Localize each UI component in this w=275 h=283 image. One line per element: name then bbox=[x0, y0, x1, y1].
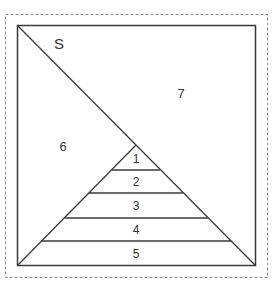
label-band-1: 1 bbox=[133, 152, 140, 166]
label-band-4: 4 bbox=[133, 223, 140, 237]
label-region-6: 6 bbox=[59, 139, 66, 154]
label-s: S bbox=[54, 35, 64, 52]
label-band-3: 3 bbox=[133, 199, 140, 213]
triangle-left-edge bbox=[18, 145, 137, 266]
label-region-7: 7 bbox=[177, 86, 184, 101]
label-band-2: 2 bbox=[133, 175, 140, 189]
diagram-canvas: S 6 7 1 2 3 4 5 bbox=[0, 0, 275, 283]
label-band-5: 5 bbox=[133, 247, 140, 261]
